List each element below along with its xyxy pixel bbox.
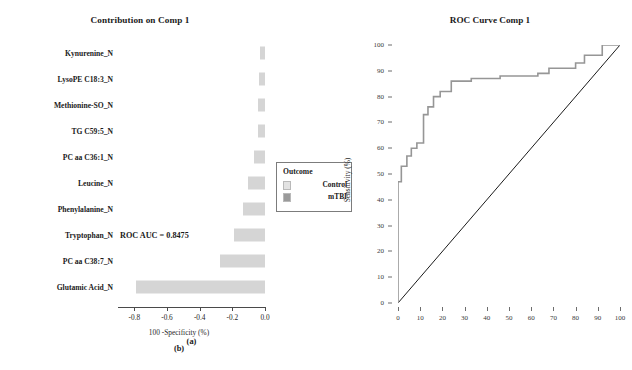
x-tick-label: -0.2: [227, 313, 239, 322]
roc-plot-area: [398, 45, 620, 303]
bar-category-label: Kynurenine_N: [8, 49, 113, 58]
bar: [234, 229, 265, 242]
x-tick-mark: [442, 307, 443, 311]
x-tick-mark: [620, 307, 621, 311]
x-tick-mark: [553, 307, 554, 311]
y-tick-label: 60: [362, 144, 384, 152]
panel-b-title: ROC Curve Comp 1: [360, 15, 620, 25]
roc-chance-diagonal: [398, 45, 620, 303]
x-tick-mark: [576, 307, 577, 311]
bar: [258, 125, 265, 138]
y-tick-mark: [388, 174, 392, 175]
roc-curve-svg: [398, 45, 620, 303]
y-tick-label: 100: [362, 41, 384, 49]
roc-auc-annotation: ROC AUC = 0.8475: [120, 231, 189, 240]
x-tick-label: 80: [572, 314, 579, 322]
y-tick-mark: [388, 122, 392, 123]
bar: [243, 203, 265, 216]
y-tick-mark: [388, 277, 392, 278]
bar: [259, 73, 265, 86]
x-tick-label: 20: [439, 314, 446, 322]
x-tick-mark: [598, 307, 599, 311]
bar: [220, 255, 265, 268]
panel-a-bars: [118, 40, 265, 300]
x-tick-mark: [200, 307, 201, 311]
y-tick-label: 30: [362, 222, 384, 230]
x-tick-mark: [509, 307, 510, 311]
bar: [248, 177, 265, 190]
x-tick-label: 0: [396, 314, 400, 322]
x-tick-label: 90: [594, 314, 601, 322]
y-tick-mark: [388, 251, 392, 252]
y-tick-mark: [388, 199, 392, 200]
x-tick-label: 50: [506, 314, 513, 322]
x-tick-mark: [487, 307, 488, 311]
bar-category-label: Methionine-SO_N: [8, 101, 113, 110]
y-tick-mark: [388, 96, 392, 97]
bar-category-label: Glutamic Acid_N: [8, 283, 113, 292]
y-tick-mark: [388, 303, 392, 304]
roc-y-axis-label: Sensitivity (%): [343, 158, 352, 203]
bar: [136, 281, 265, 294]
x-tick-label: -0.8: [129, 313, 141, 322]
x-tick-label: 60: [528, 314, 535, 322]
y-tick-label: 0: [362, 299, 384, 307]
x-tick-label: 0.0: [260, 313, 269, 322]
bar: [258, 99, 265, 112]
y-tick-label: 10: [362, 273, 384, 281]
legend-swatch: [283, 193, 291, 202]
bar-category-label: Leucine_N: [8, 179, 113, 188]
legend-swatch: [283, 181, 291, 190]
roc-x-axis-label: 100 -Specificity (%): [68, 328, 290, 337]
bar-category-label: PC aa C36:1_N: [8, 153, 113, 162]
y-tick-label: 80: [362, 93, 384, 101]
panel-a-title: Contribution on Comp 1: [0, 15, 280, 25]
bar-category-label: PC aa C38:7_N: [8, 257, 113, 266]
panel-a-x-axis-line: [118, 307, 265, 308]
x-tick-label: 40: [483, 314, 490, 322]
x-tick-mark: [531, 307, 532, 311]
bar: [254, 151, 265, 164]
bar-category-label: Phenylalanine_N: [8, 205, 113, 214]
x-tick-label: 30: [461, 314, 468, 322]
panel-b-caption: (b): [68, 344, 290, 353]
x-tick-mark: [398, 307, 399, 311]
x-tick-label: 100: [615, 314, 626, 322]
bar-category-label: Tryptophan_N: [8, 231, 113, 240]
y-tick-mark: [388, 45, 392, 46]
x-tick-mark: [465, 307, 466, 311]
y-tick-mark: [388, 70, 392, 71]
y-tick-label: 90: [362, 67, 384, 75]
bar-category-label: LysoPE C18:3_N: [8, 75, 113, 84]
y-tick-mark: [388, 225, 392, 226]
bar: [260, 47, 265, 60]
y-tick-label: 20: [362, 247, 384, 255]
legend-title: Outcome: [283, 167, 313, 176]
x-tick-mark: [167, 307, 168, 311]
x-tick-mark: [265, 307, 266, 311]
bar-category-label: TG C59:5_N: [8, 127, 113, 136]
x-tick-mark: [232, 307, 233, 311]
figure-container: Contribution on Comp 1 Kynurenine_NLysoP…: [0, 0, 632, 370]
panel-a-category-labels: Kynurenine_NLysoPE C18:3_NMethionine-SO_…: [8, 40, 113, 300]
x-tick-mark: [134, 307, 135, 311]
y-tick-label: 70: [362, 118, 384, 126]
x-tick-label: -0.4: [194, 313, 206, 322]
y-tick-mark: [388, 148, 392, 149]
y-tick-label: 50: [362, 170, 384, 178]
x-tick-label: 70: [550, 314, 557, 322]
x-tick-mark: [420, 307, 421, 311]
x-tick-label: 10: [417, 314, 424, 322]
x-tick-label: -0.6: [161, 313, 173, 322]
y-tick-label: 40: [362, 196, 384, 204]
